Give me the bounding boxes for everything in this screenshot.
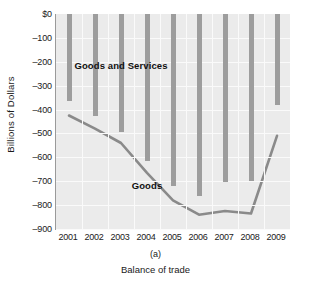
gridline-vertical bbox=[82, 14, 83, 229]
panel-label: (a) bbox=[0, 249, 311, 259]
bar-goods-and-services bbox=[275, 14, 280, 105]
bar-goods-and-services bbox=[249, 14, 254, 181]
series-annotation: Goods and Services bbox=[74, 60, 167, 71]
y-axis-title-text: Billions of Dollars bbox=[5, 76, 16, 153]
x-tick-label: 2005 bbox=[162, 232, 181, 242]
series-annotation: Goods bbox=[132, 179, 163, 190]
y-tick-label: –700 bbox=[32, 176, 52, 186]
y-tick-label: –100 bbox=[32, 33, 52, 43]
x-tick-label: 2003 bbox=[110, 232, 129, 242]
x-tick-label: 2004 bbox=[136, 232, 155, 242]
gridline-vertical bbox=[160, 14, 161, 229]
bar-goods-and-services bbox=[223, 14, 228, 182]
gridline-vertical bbox=[186, 14, 187, 229]
gridline-vertical bbox=[264, 14, 265, 229]
gridline-horizontal bbox=[56, 229, 290, 230]
y-tick-label: –500 bbox=[32, 128, 52, 138]
balance-of-trade-figure: Billions of Dollars $0–100–200–300–400–5… bbox=[0, 0, 311, 282]
bar-goods-and-services bbox=[119, 14, 124, 132]
bar-goods-and-services bbox=[145, 14, 150, 161]
x-axis-tick-labels: 200120022003200420052006200720082009 bbox=[55, 232, 293, 246]
gridline-vertical bbox=[134, 14, 135, 229]
y-tick-label: –600 bbox=[32, 152, 52, 162]
y-axis-tick-labels: $0–100–200–300–400–500–600–700–800–900 bbox=[18, 0, 54, 240]
bar-goods-and-services bbox=[171, 14, 176, 186]
y-tick-label: –200 bbox=[32, 57, 52, 67]
gridline-vertical bbox=[108, 14, 109, 229]
gridline-horizontal bbox=[56, 205, 290, 206]
y-tick-label: –300 bbox=[32, 81, 52, 91]
figure-caption: Balance of trade bbox=[0, 264, 311, 275]
bar-goods-and-services bbox=[67, 14, 72, 101]
x-tick-label: 2002 bbox=[84, 232, 103, 242]
x-tick-label: 2006 bbox=[188, 232, 207, 242]
y-tick-label: –400 bbox=[32, 105, 52, 115]
y-tick-label: –900 bbox=[32, 224, 52, 234]
gridline-vertical bbox=[238, 14, 239, 229]
x-tick-label: 2001 bbox=[58, 232, 77, 242]
x-tick-label: 2009 bbox=[266, 232, 285, 242]
y-tick-label: –800 bbox=[32, 200, 52, 210]
x-tick-label: 2008 bbox=[240, 232, 259, 242]
bar-goods-and-services bbox=[197, 14, 202, 196]
y-tick-label: $0 bbox=[42, 9, 52, 19]
gridline-vertical bbox=[212, 14, 213, 229]
x-tick-label: 2007 bbox=[214, 232, 233, 242]
plot-area: Goods and ServicesGoods bbox=[55, 14, 290, 230]
